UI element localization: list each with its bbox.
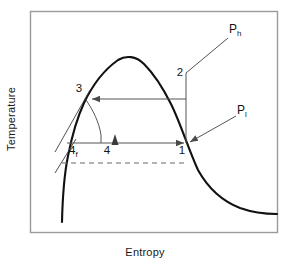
- state-label-1: 1: [179, 144, 185, 156]
- state-label-4f-subscript: f: [75, 150, 78, 159]
- pressure-label-ph-subscript: h: [237, 29, 241, 38]
- saturation-dome-curve: [62, 57, 277, 222]
- temperature-entropy-figure: Temperature Entropy: [0, 0, 290, 269]
- leader-line-ph: [186, 38, 228, 73]
- state-label-4: 4: [104, 144, 111, 156]
- pressure-label-ph: Ph: [229, 22, 241, 38]
- leader-line-pl: [190, 116, 236, 142]
- process-curve-3-to-4: [86, 100, 101, 143]
- ts-diagram-plot: 1 2 3 4 4f Ph Pl: [0, 0, 290, 269]
- plot-frame: [31, 12, 278, 233]
- state-label-2: 2: [177, 66, 183, 78]
- pressure-label-pl-main: P: [237, 103, 245, 117]
- pressure-label-pl: Pl: [237, 103, 247, 119]
- state-label-3: 3: [76, 82, 82, 94]
- state-label-4f: 4f: [69, 144, 78, 159]
- flow-direction-triangle-icon: [112, 134, 119, 145]
- pressure-label-pl-subscript: l: [245, 110, 247, 119]
- pressure-label-ph-main: P: [229, 22, 237, 36]
